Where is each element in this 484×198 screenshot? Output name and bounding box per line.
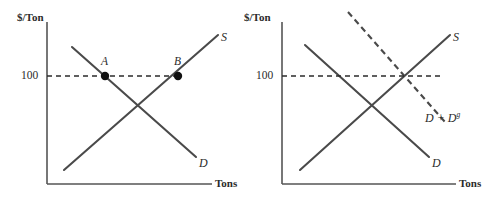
demand-curve-label: D [199,157,208,169]
point-a-label: A [101,56,108,68]
y-axis-label: $/Ton [244,12,271,23]
dg-label-superscript: g [456,110,460,119]
dg-label-base: D + D [425,111,456,125]
demand-plus-government-curve [348,12,445,122]
y-axis-label: $/Ton [17,12,44,23]
x-axis-label: Tons [215,178,237,189]
supply-curve-label: S [453,31,459,43]
supply-curve [64,35,218,170]
figure-container: $/Ton 100 Tons S D A B $/Ton 100 Tons S … [0,0,484,198]
demand-curve-label: D [432,157,441,169]
x-axis-label: Tons [459,178,481,189]
point-a-marker [101,72,109,80]
demand-plus-government-curve-label: D + Dg [425,112,460,124]
y-tick-100: 100 [256,70,273,82]
y-tick-100: 100 [21,70,38,82]
supply-curve-label: S [221,31,227,43]
point-b-label: B [174,56,181,68]
panel-right: $/Ton 100 Tons S D D + Dg [242,0,484,198]
demand-curve [305,45,429,157]
panel-left: $/Ton 100 Tons S D A B [0,0,242,198]
point-b-marker [174,72,182,80]
plot-right [242,0,484,198]
